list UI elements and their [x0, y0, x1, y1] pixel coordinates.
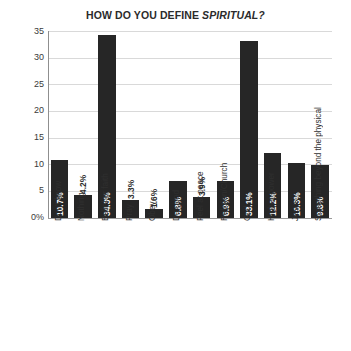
bar-chart-figure: HOW DO YOU DEFINE SPIRITUAL? 35302520151…: [0, 0, 351, 351]
x-category-label: Do good: [173, 190, 181, 221]
chart-title: HOW DO YOU DEFINE SPIRITUAL?: [0, 9, 351, 21]
x-category-label: Don't know: [54, 181, 62, 221]
y-tick-label: 15: [4, 133, 44, 142]
x-category-label: Belief or faith: [102, 173, 110, 221]
y-axis-tick-labels: 35302520151050%: [0, 31, 44, 218]
x-category-label: Jesus: [291, 200, 299, 221]
x-category-label: Pray: [125, 204, 133, 221]
gridline: [48, 218, 333, 219]
x-category-label: Higher power: [268, 172, 276, 221]
y-tick-label: 20: [4, 106, 44, 115]
y-tick-label: 5: [4, 186, 44, 195]
chart-title-italic: SPIRITUAL?: [202, 9, 265, 21]
x-category-label: Nothing: [78, 193, 86, 221]
y-tick-label: 0%: [4, 213, 44, 222]
x-category-label: Something beyond the physical: [315, 107, 323, 221]
bar-value-label: 3.3%: [122, 173, 140, 199]
y-tick-label: 25: [4, 80, 44, 89]
bar-value-label: 4.2%: [74, 168, 92, 194]
bars-layer: 10.7%4.2%34.3%3.3%1.6%6.8%3.9%6.9%33.1%1…: [48, 31, 333, 218]
x-category-label: God: [244, 206, 252, 221]
x-axis-category-labels: Don't knowNothingBelief or faithPrayObey…: [48, 221, 333, 346]
y-tick-label: 30: [4, 53, 44, 62]
x-category-label: Feel at peace: [197, 171, 205, 221]
y-tick-label: 35: [4, 27, 44, 36]
bar-slot[interactable]: 1.6%: [145, 31, 163, 218]
x-category-label: Religion/Church: [220, 163, 228, 221]
bar-slot[interactable]: 10.3%: [288, 31, 306, 218]
y-tick-label: 10: [4, 160, 44, 169]
chart-title-plain: HOW DO YOU DEFINE: [86, 9, 202, 21]
bar-slot[interactable]: 33.1%: [240, 31, 258, 218]
bar-slot[interactable]: 3.3%: [122, 31, 140, 218]
bar-slot[interactable]: 4.2%: [74, 31, 92, 218]
x-category-label: Obey: [149, 201, 157, 221]
